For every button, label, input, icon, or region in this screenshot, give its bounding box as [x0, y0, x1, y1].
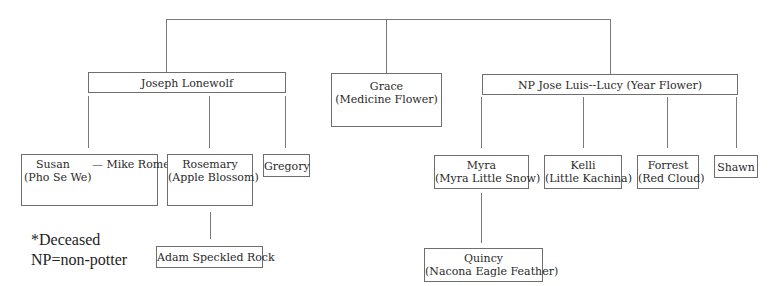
node-gregory: Gregory — [263, 154, 310, 177]
node-name: Adam Speckled Rock — [157, 251, 262, 264]
node-name: Kelli — [545, 159, 621, 172]
connector-adam — [210, 212, 211, 239]
node-kelli: Kelli (Little Kachina) — [544, 155, 622, 189]
node-alias: (Little Kachina) — [545, 172, 621, 185]
node-forrest: Forrest (Red Cloud) — [637, 155, 699, 189]
node-alias: (Nacona Eagle Feather) — [425, 265, 542, 278]
node-myra: Myra (Myra Little Snow) — [434, 155, 529, 189]
node-name: Grace — [332, 80, 441, 93]
node-name: NP Jose Luis--Lucy (Year Flower) — [483, 79, 737, 92]
node-grace: Grace (Medicine Flower) — [331, 73, 442, 127]
node-susan: Susan— Mike Romero (Pho Se We) — [21, 154, 158, 206]
node-joseph-lonewolf: Joseph Lonewolf — [88, 72, 286, 93]
connector-forrest — [667, 97, 668, 148]
node-name: Susan — [36, 158, 70, 171]
connector-rosemary — [209, 96, 210, 148]
node-name: Gregory — [264, 160, 309, 173]
connector-joseph — [166, 19, 167, 72]
connector-shawn — [736, 97, 737, 148]
legend-nonpotter: NP=non-potter — [31, 250, 127, 270]
connector-top — [166, 19, 611, 20]
connector-kelli — [583, 97, 584, 148]
node-shawn: Shawn — [714, 155, 758, 178]
node-name: Rosemary — [168, 158, 252, 171]
node-rosemary: Rosemary (Apple Blossom) — [167, 154, 253, 206]
node-name: Joseph Lonewolf — [89, 77, 285, 90]
node-quincy: Quincy (Nacona Eagle Feather) — [424, 248, 543, 282]
node-name: Forrest — [638, 159, 698, 172]
connector-grace — [386, 19, 387, 73]
node-name-line: Susan— Mike Romero — [24, 158, 157, 171]
node-alias: (Pho Se We) — [24, 171, 157, 184]
node-name: Quincy — [425, 252, 542, 265]
connector-jose — [610, 19, 611, 74]
node-alias: (Medicine Flower) — [332, 93, 441, 106]
node-adam-speckled-rock: Adam Speckled Rock — [156, 246, 263, 268]
node-name: Shawn — [715, 161, 757, 174]
node-alias: (Red Cloud) — [638, 172, 698, 185]
node-alias: (Myra Little Snow) — [435, 172, 528, 185]
node-name: Myra — [435, 159, 528, 172]
connector-quincy — [481, 193, 482, 243]
connector-susan — [88, 96, 89, 148]
connector-myra — [481, 97, 482, 148]
connector-gregory — [285, 96, 286, 148]
node-alias: (Apple Blossom) — [168, 171, 252, 184]
node-jose-luis-lucy: NP Jose Luis--Lucy (Year Flower) — [482, 74, 738, 95]
legend-deceased: *Deceased — [31, 230, 127, 250]
legend: *Deceased NP=non-potter — [31, 230, 127, 270]
